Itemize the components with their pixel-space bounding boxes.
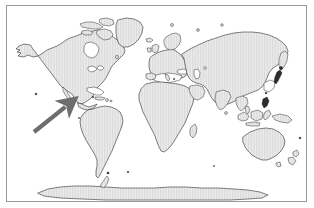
island-madagascar — [190, 124, 197, 138]
island-sri-lanka — [225, 112, 228, 115]
landmass-north-america — [16, 30, 125, 104]
island-ellesmere — [99, 18, 114, 26]
landmass-scandinavia — [164, 33, 181, 50]
map-land-layer — [16, 18, 301, 200]
island-tasmania — [276, 162, 281, 167]
island-java — [246, 122, 260, 126]
landmass-caribbean-islands — [95, 97, 105, 100]
world-map-canvas — [0, 0, 314, 208]
coastline-aral-sea — [204, 67, 207, 70]
island-iceland — [146, 38, 153, 42]
peninsula-antarctic — [100, 176, 109, 188]
island-new-zealand-south — [288, 157, 296, 165]
island-new-guinea — [272, 114, 292, 123]
island-galapagos — [78, 117, 79, 118]
island-crete — [173, 78, 174, 79]
island-falklands — [107, 172, 109, 174]
island-svalbard — [171, 24, 174, 27]
landmass-south-america — [80, 106, 123, 178]
landmass-greenland — [116, 18, 143, 47]
landmass-india — [215, 90, 231, 110]
world-map-figure — [0, 0, 314, 208]
landmass-new-zealand — [293, 150, 299, 157]
peninsula-malay — [245, 106, 250, 114]
island-south-georgia — [127, 171, 129, 173]
island-hispaniola — [106, 99, 109, 102]
island-newfoundland — [115, 55, 118, 58]
island-iberia — [146, 73, 156, 80]
landmass-australia — [243, 128, 285, 160]
island-cuba-tip — [92, 96, 94, 98]
island-borneo — [251, 110, 263, 121]
landmass-philippines — [262, 97, 269, 108]
island-novaya-zemlya — [197, 29, 200, 32]
island-hawaii — [35, 93, 37, 95]
island-taiwan — [265, 92, 267, 94]
island-puerto-rico — [110, 100, 112, 102]
landmass-canadian-arctic-archipelago — [80, 22, 103, 29]
annotation-layer — [34, 107, 65, 132]
landmass-africa — [139, 82, 194, 152]
location-pointer-arrow — [34, 107, 65, 132]
landmass-antarctica — [38, 186, 268, 200]
island-ireland — [147, 48, 151, 52]
island-sulawesi — [263, 110, 271, 120]
island-severnaya-zemlya — [221, 24, 224, 27]
island-fiji — [299, 137, 301, 139]
landmass-japan — [274, 70, 282, 84]
island-hokkaido — [279, 66, 282, 69]
landmass-british-isles — [152, 44, 159, 53]
island-kerguelen — [213, 165, 214, 166]
